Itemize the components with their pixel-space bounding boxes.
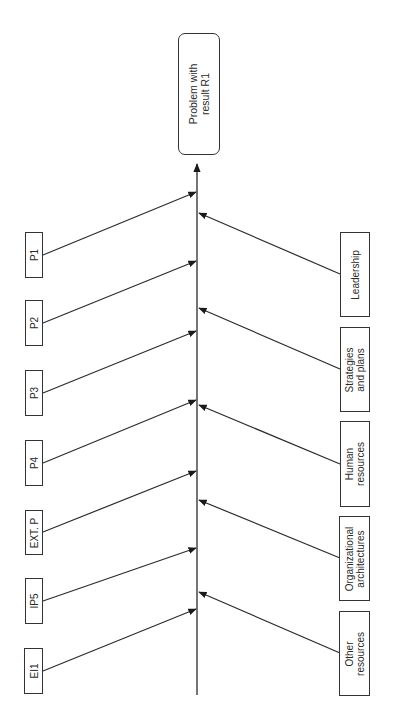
cause-label-ext-p: EXT. P [29,517,40,548]
cause-box-p3: P3 [25,370,43,416]
effect-box: Problem with result R1 [178,33,220,155]
connector-other-resources [199,592,340,653]
cause-label-strategies-line2: and plans [355,347,366,392]
cause-label-human-resources: Human resources [344,442,366,486]
cause-label-other-resources: Other resources [344,632,366,676]
connector-ei1 [43,609,196,671]
cause-box-ext-p: EXT. P [25,510,43,555]
connector-p3 [43,331,196,393]
cause-box-p2: P2 [25,300,43,346]
cause-label-p2: P2 [29,317,40,329]
connector-leadership [199,213,340,274]
cause-label-p3: P3 [29,387,40,399]
cause-box-human-resources: Human resources [340,421,370,507]
effect-label-line1: Problem with [187,64,199,125]
cause-box-leadership: Leadership [340,232,370,317]
cause-box-other-resources: Other resources [339,611,370,696]
connector-human-resources [199,405,340,464]
connector-strategies [199,308,340,369]
effect-label-line2: result R1 [199,64,211,125]
cause-label-org-architectures-line1: Organizational [344,526,355,590]
cause-label-leadership-line1: Leadership [350,250,361,299]
cause-label-leadership: Leadership [350,250,361,299]
cause-label-other-resources-line2: resources [355,632,366,676]
cause-label-org-architectures-line2: architectures [355,526,366,590]
cause-label-strategies-line1: Strategies [344,347,355,392]
cause-label-strategies: Strategies and plans [344,347,366,392]
connector-org-architectures [199,500,340,558]
cause-label-human-resources-line2: resources [355,442,366,486]
cause-label-p1: P1 [29,249,40,261]
connector-ip5 [43,548,196,601]
cause-box-org-architectures: Organizational architectures [339,516,370,601]
cause-label-org-architectures: Organizational architectures [344,526,366,590]
effect-label: Problem with result R1 [187,64,211,125]
cause-label-human-resources-line1: Human [344,442,355,486]
cause-box-ei1: EI1 [24,648,43,694]
cause-box-p4: P4 [25,440,43,486]
connector-p2 [43,261,196,323]
connector-ext-p [43,471,196,532]
cause-box-p1: P1 [25,232,43,278]
cause-label-ip5: IP5 [29,593,40,608]
cause-box-ip5: IP5 [25,578,43,624]
cause-box-strategies: Strategies and plans [340,327,370,412]
connector-p4 [43,400,196,463]
cause-label-ei1: EI1 [28,663,39,678]
connector-p1 [43,192,196,255]
cause-label-other-resources-line1: Other [344,632,355,676]
cause-label-p4: P4 [29,457,40,469]
